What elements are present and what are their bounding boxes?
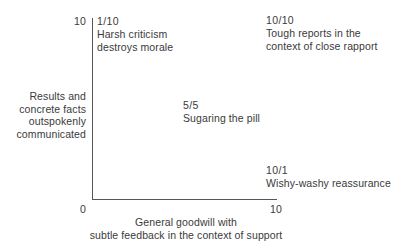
annotation-coord: 5/5 bbox=[183, 99, 260, 112]
annotation-text-line-1: Wishy-washy reassurance bbox=[266, 177, 391, 190]
x-axis-line bbox=[92, 199, 277, 200]
annotation-sugaring-the-pill: 5/5 Sugaring the pill bbox=[183, 99, 260, 125]
annotation-text-line-1: Tough reports in the bbox=[266, 27, 378, 40]
y-axis-tick-10: 10 bbox=[72, 15, 86, 27]
y-axis-label-line-1: Results and bbox=[6, 90, 86, 103]
annotation-text-line-2: destroys morale bbox=[97, 41, 173, 54]
y-axis-line bbox=[92, 18, 93, 200]
x-axis-label-line-1: General goodwill with bbox=[55, 216, 317, 229]
annotation-text-line-2: context of close rapport bbox=[266, 40, 378, 53]
x-axis-label: General goodwill with subtle feedback in… bbox=[55, 216, 317, 242]
x-axis-label-line-2: subtle feedback in the context of suppor… bbox=[55, 229, 317, 242]
annotation-coord: 10/1 bbox=[266, 164, 391, 177]
annotation-tough-reports: 10/10 Tough reports in the context of cl… bbox=[266, 14, 378, 54]
y-axis-label: Results and concrete facts outspokenly c… bbox=[6, 90, 86, 140]
y-axis-label-line-2: concrete facts bbox=[6, 103, 86, 116]
feedback-matrix-chart: 10 0 10 Results and concrete facts outsp… bbox=[0, 0, 397, 249]
annotation-coord: 1/10 bbox=[97, 15, 173, 28]
y-axis-label-line-4: communicated bbox=[6, 128, 86, 141]
annotation-wishy-washy-reassurance: 10/1 Wishy-washy reassurance bbox=[266, 164, 391, 190]
annotation-text-line-1: Harsh criticism bbox=[97, 28, 173, 41]
annotation-harsh-criticism: 1/10 Harsh criticism destroys morale bbox=[97, 15, 173, 55]
annotation-text-line-1: Sugaring the pill bbox=[183, 112, 260, 125]
x-axis-tick-0: 0 bbox=[78, 203, 88, 215]
annotation-coord: 10/10 bbox=[266, 14, 378, 27]
x-axis-tick-10: 10 bbox=[267, 203, 285, 215]
y-axis-label-line-3: outspokenly bbox=[6, 115, 86, 128]
